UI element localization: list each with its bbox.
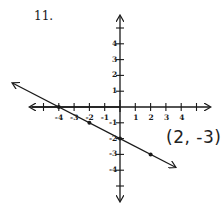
svg-text:-1: -1 [101,113,109,122]
svg-text:4: 4 [179,113,184,122]
plotted-line-left-arrow [13,83,120,138]
svg-text:-1: -1 [109,118,117,127]
coordinate-plane: -4-3-2-11234 4321-1-2-3-4 [0,0,222,212]
svg-text:1: 1 [112,86,117,95]
svg-text:2: 2 [112,70,117,79]
svg-text:-3: -3 [109,149,117,158]
data-point [57,105,61,109]
data-point [149,152,153,156]
svg-text:3: 3 [112,55,117,64]
svg-text:4: 4 [112,39,117,48]
svg-text:-4: -4 [109,165,117,174]
data-point [87,121,91,125]
svg-text:-2: -2 [85,113,93,122]
svg-text:3: 3 [164,113,169,122]
svg-text:2: 2 [149,113,154,122]
svg-text:-4: -4 [55,113,63,122]
svg-text:1: 1 [133,113,138,122]
data-point [118,137,122,141]
point-label: (2, -3) [166,127,221,147]
